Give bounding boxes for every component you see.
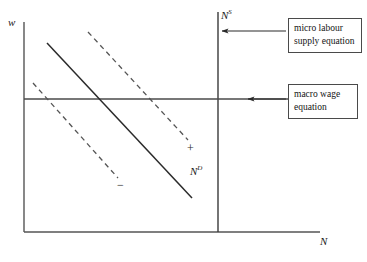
macro-callout-line-1: macro wage xyxy=(294,88,352,101)
shift-right-plus-sign: + xyxy=(187,142,194,154)
labour-demand-label-superscript: D xyxy=(197,164,202,172)
labour-demand-curve-label: ND xyxy=(190,165,202,177)
y-axis-label: w xyxy=(8,17,15,28)
labour-supply-curve-label: NS xyxy=(221,9,232,21)
labour-demand-shift-right-curve xyxy=(88,32,188,140)
micro-callout-line-2: supply equation xyxy=(294,35,356,48)
labour-demand-shift-left-curve xyxy=(33,83,118,178)
macro-callout-line-2: equation xyxy=(294,101,352,114)
shift-left-minus-sign: − xyxy=(117,179,124,191)
micro-callout-line-1: micro labour xyxy=(294,22,356,35)
micro-labour-supply-callout: micro labour supply equation xyxy=(288,18,362,53)
macro-wage-equation-callout: macro wage equation xyxy=(288,84,358,119)
x-axis-label: N xyxy=(320,236,327,247)
labour-supply-label-superscript: S xyxy=(228,8,232,16)
economics-labour-market-diagram: w N NS ND + − micro labour supply equati… xyxy=(0,0,367,262)
